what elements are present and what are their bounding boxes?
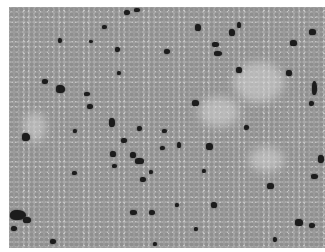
stained-cell (177, 142, 181, 148)
stained-cell (160, 146, 165, 150)
stained-cell (202, 169, 206, 173)
stained-cell (309, 29, 316, 35)
stained-cell (72, 171, 77, 175)
stained-cell (164, 49, 170, 54)
stained-cell (295, 219, 303, 226)
stained-cell (206, 143, 213, 150)
stained-cell (42, 79, 48, 84)
stained-cell (50, 239, 56, 244)
stained-cell (286, 70, 292, 76)
stained-cell (149, 210, 155, 215)
pale-tissue-region (249, 147, 284, 172)
stained-cell (244, 125, 249, 130)
stained-cell (309, 101, 314, 106)
stained-cell (115, 47, 120, 52)
stained-cell (140, 177, 146, 182)
stained-cell (112, 164, 117, 168)
stained-cell (229, 29, 235, 36)
stained-cell (89, 40, 93, 43)
stained-cell (162, 129, 167, 133)
stained-cell (110, 151, 116, 157)
stained-cell (214, 51, 222, 56)
stained-cell (11, 226, 17, 231)
stained-cell (311, 174, 318, 179)
stained-cell (130, 210, 137, 215)
stained-cell (135, 158, 144, 164)
stained-cell (124, 10, 130, 15)
pale-tissue-region (199, 97, 239, 127)
histology-micrograph (9, 7, 325, 248)
stained-cell (137, 126, 142, 131)
stained-cell (273, 237, 277, 242)
stained-cell (212, 42, 219, 47)
stained-cell (312, 81, 317, 95)
stained-cell (23, 217, 31, 223)
stained-cell (130, 152, 136, 158)
stained-cell (121, 138, 127, 143)
stained-cell (309, 223, 315, 228)
stained-cell (318, 155, 324, 163)
stained-cell (102, 25, 107, 29)
stained-cell (195, 24, 201, 31)
stained-cell (194, 227, 198, 231)
stained-cell (84, 92, 90, 96)
stained-cell (290, 40, 297, 46)
stained-cell (134, 8, 140, 12)
stained-cell (211, 202, 217, 208)
stained-cell (56, 85, 65, 93)
stained-cell (192, 100, 199, 106)
stained-cell (175, 203, 179, 207)
stained-cell (236, 67, 242, 73)
stained-cell (73, 129, 77, 133)
stained-cell (153, 242, 157, 246)
stained-cell (109, 118, 115, 127)
stained-cell (117, 71, 121, 75)
stained-cell (237, 22, 241, 28)
stained-cell (149, 170, 153, 174)
stained-cell (267, 183, 274, 189)
stained-cell (58, 38, 62, 43)
stained-cell (87, 104, 93, 109)
stained-cell (22, 133, 30, 141)
